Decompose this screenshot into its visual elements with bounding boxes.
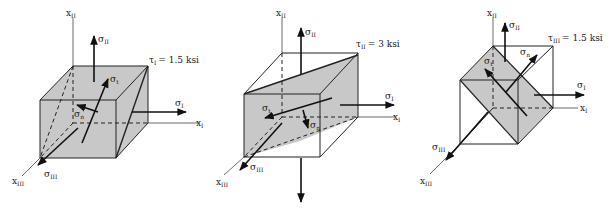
sigma-iii-arrow xyxy=(446,112,488,160)
svg-text:xIII: xIII xyxy=(216,177,229,188)
svg-text:xI: xI xyxy=(393,112,401,123)
figure-right: xII σII τIII= 1.5 ksi σn σt σI xI σIII x… xyxy=(420,8,603,187)
figure-middle: xII σII τII= 3 ksi σt σn σI xI σIII xIII xyxy=(216,8,401,202)
svg-text:τI= 1.5 ksi: τI= 1.5 ksi xyxy=(149,55,199,66)
svg-text:σII: σII xyxy=(98,34,110,45)
svg-text:σIII: σIII xyxy=(432,142,446,153)
svg-text:σn: σn xyxy=(520,47,530,58)
svg-text:xII: xII xyxy=(276,8,286,19)
svg-text:σI: σI xyxy=(577,80,586,91)
svg-text:σI: σI xyxy=(385,91,394,102)
svg-text:σI: σI xyxy=(175,98,184,109)
svg-text:xII: xII xyxy=(66,8,76,19)
svg-text:xI: xI xyxy=(196,118,204,129)
svg-text:xII: xII xyxy=(487,8,497,19)
svg-text:xI: xI xyxy=(580,103,588,114)
svg-text:σII: σII xyxy=(509,20,521,31)
svg-text:τIII= 1.5 ksi: τIII= 1.5 ksi xyxy=(548,33,603,44)
svg-text:σIII: σIII xyxy=(250,162,264,173)
stress-diagrams: xII σII τI= 1.5 ksi σt σI xI σn σIII xII… xyxy=(0,0,616,211)
svg-text:τII= 3 ksi: τII= 3 ksi xyxy=(356,39,400,50)
figure-left: xII σII τI= 1.5 ksi σt σI xI σn σIII xII… xyxy=(12,8,204,187)
axis-x3 xyxy=(224,157,244,175)
svg-text:σII: σII xyxy=(305,27,317,38)
axis-x3 xyxy=(22,158,40,176)
svg-text:σIII: σIII xyxy=(44,169,58,180)
svg-text:xIII: xIII xyxy=(420,176,433,187)
svg-text:xIII: xIII xyxy=(12,176,25,187)
